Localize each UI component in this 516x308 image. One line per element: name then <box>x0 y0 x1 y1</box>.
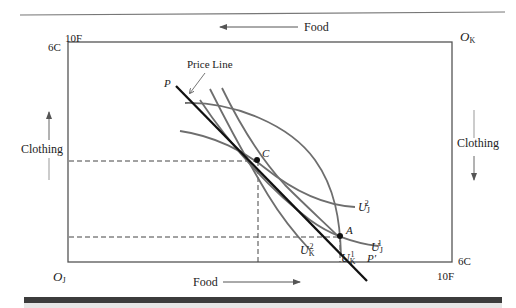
indifference-curve-uk2 <box>210 89 310 250</box>
price-start-label: P <box>164 78 171 89</box>
edgeworth-box-diagram <box>0 0 516 308</box>
origin-james-label: OJ <box>53 270 66 285</box>
top-food-label: Food <box>304 21 329 33</box>
bottom-right-clothing-label: 6C <box>458 256 471 267</box>
edgeworth-box <box>68 42 452 262</box>
bottom-right-food-label: 10F <box>437 271 454 282</box>
price-end-label: P′ <box>367 253 376 264</box>
top-left-food-label: 10F <box>65 33 82 44</box>
price-line-label: Price Line <box>187 59 233 70</box>
bottom-rule-shadow <box>24 303 502 308</box>
point-c-dot <box>254 157 260 163</box>
right-clothing-label: Clothing <box>457 137 499 149</box>
bottom-food-label: Food <box>193 276 218 288</box>
price-line <box>176 86 367 281</box>
origin-karen-label: OK <box>460 30 475 45</box>
point-a-label: A <box>346 225 353 236</box>
point-c-label: C <box>262 148 269 159</box>
uk1-label: UK1 <box>341 251 354 266</box>
price-line-callout-arrow <box>190 73 205 93</box>
top-left-clothing-label: 6C <box>48 42 61 53</box>
uk2-label: UK2 <box>300 243 313 258</box>
top-rule <box>20 12 505 15</box>
left-clothing-label: Clothing <box>21 143 63 155</box>
uj2-label: UJ2 <box>358 200 369 215</box>
point-a-dot <box>337 233 343 239</box>
